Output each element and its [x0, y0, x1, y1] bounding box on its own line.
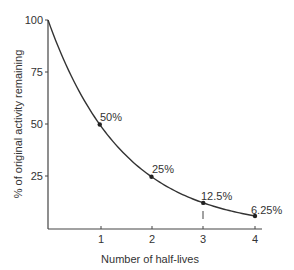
x-tick-3: 3 — [200, 233, 206, 245]
y-tick-75: 75 — [31, 66, 43, 78]
y-ticks: 100 75 50 25 — [25, 14, 48, 182]
x-tick-1: 1 — [98, 233, 104, 245]
point-label-50: 50% — [100, 111, 122, 123]
data-points — [98, 122, 258, 218]
x-axis-title: Number of half-lives — [101, 253, 199, 265]
x-tick-4: 4 — [252, 233, 258, 245]
point-label-12-5: 12.5% — [201, 190, 232, 202]
y-axis-title: % of original activity remaining — [12, 50, 24, 199]
data-point — [149, 175, 153, 179]
y-tick-100: 100 — [25, 14, 43, 26]
decay-chart: 100 75 50 25 1 2 3 4 50% 25% 12.5% 6.25%… — [0, 0, 294, 270]
y-tick-50: 50 — [31, 118, 43, 130]
decay-curve — [48, 20, 255, 216]
point-label-25: 25% — [152, 163, 174, 175]
point-label-6-25: 6.25% — [251, 204, 282, 216]
x-tick-2: 2 — [149, 233, 155, 245]
y-tick-25: 25 — [31, 170, 43, 182]
